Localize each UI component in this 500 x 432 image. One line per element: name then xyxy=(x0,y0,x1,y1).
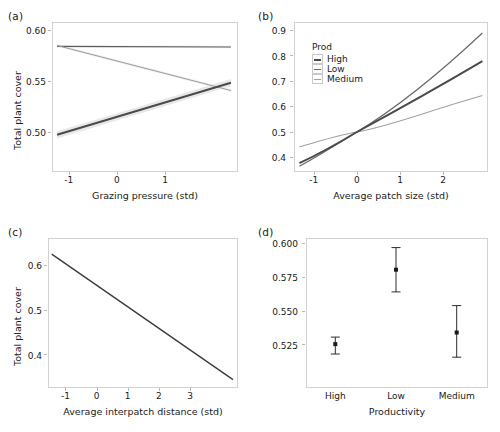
panel-b-xlabel: Average patch size (std) xyxy=(294,190,488,201)
panel-a-line-high xyxy=(57,83,231,135)
legend-swatch-medium-icon xyxy=(312,74,323,84)
errorbar-high xyxy=(331,337,340,354)
panel-b: (b) 0.9 0.8 0.7 0.6 0.5 0.4 -1 0 1 2 xyxy=(250,0,500,216)
panel-d-xlabel: Productivity xyxy=(306,406,488,417)
errorbar-low xyxy=(392,248,401,292)
legend-label-medium: Medium xyxy=(327,74,363,84)
panel-a: (a) Total plant cover 0.50 0.55 0.60 -1 … xyxy=(0,0,250,216)
panel-c-line-fit xyxy=(52,254,233,379)
figure-multipanel: (a) Total plant cover 0.50 0.55 0.60 -1 … xyxy=(0,0,500,432)
panel-b-legend: Prod High Low Medium xyxy=(312,42,363,84)
panel-c-line xyxy=(0,216,250,432)
errorbar-medium xyxy=(452,306,461,358)
panel-a-lines xyxy=(0,0,250,216)
panel-b-line-medium xyxy=(299,96,482,147)
panel-a-line-medium xyxy=(57,46,231,91)
panel-d: (d) 0.525 0.550 0.575 0.600 High Low Med… xyxy=(250,216,500,432)
panel-b-lines xyxy=(250,0,500,216)
legend-label-low: Low xyxy=(327,64,345,74)
legend-swatch-high-icon xyxy=(312,54,323,64)
panel-a-xlabel: Grazing pressure (std) xyxy=(52,190,238,201)
panel-c-xlabel: Average interpatch distance (std) xyxy=(38,406,248,417)
panel-a-line-low xyxy=(57,46,231,47)
legend-item-medium[interactable]: Medium xyxy=(312,74,363,84)
legend-label-high: High xyxy=(327,54,348,64)
legend-item-high[interactable]: High xyxy=(312,54,363,64)
legend-item-low[interactable]: Low xyxy=(312,64,363,74)
panel-c: (c) Total plant cover 0.4 0.5 0.6 -1 0 1… xyxy=(0,216,250,432)
legend-title: Prod xyxy=(312,42,363,52)
panel-d-errorbars xyxy=(250,216,500,432)
legend-swatch-low-icon xyxy=(312,64,323,74)
